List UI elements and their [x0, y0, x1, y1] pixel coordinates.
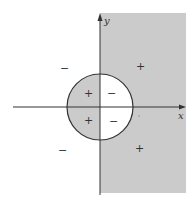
speck-mark [138, 115, 139, 116]
sign-circle-lower-left: + [84, 114, 93, 127]
x-axis-label: x [178, 110, 184, 121]
sign-upper-left: − [60, 62, 69, 75]
sign-upper-right: + [136, 60, 145, 73]
sign-region-diagram: x y − + − + + − + − [0, 0, 194, 204]
sign-lower-right: + [135, 142, 144, 155]
sign-circle-upper-left: + [84, 87, 93, 100]
sign-circle-upper-right: − [107, 87, 116, 100]
sign-lower-left: − [58, 144, 67, 157]
sign-circle-lower-right: − [109, 115, 118, 128]
y-axis-label: y [103, 15, 110, 26]
